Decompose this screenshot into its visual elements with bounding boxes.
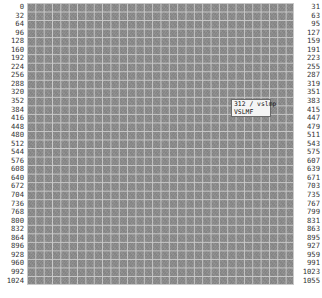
block-grid[interactable] [27, 3, 294, 285]
row-end-label: 1055 [297, 277, 320, 286]
row-start-labels: 0326496128160192224256288320352384416448… [0, 3, 24, 285]
row-end-labels: 3163951271591912232552873193513834154474… [297, 3, 320, 285]
tooltip-type: VSLMF [234, 109, 268, 117]
block-map-viewer: 0326496128160192224256288320352384416448… [0, 0, 322, 298]
row-start-label: 1024 [0, 277, 24, 286]
cell-tooltip: 312 / vslmp VSLMF [231, 99, 271, 117]
